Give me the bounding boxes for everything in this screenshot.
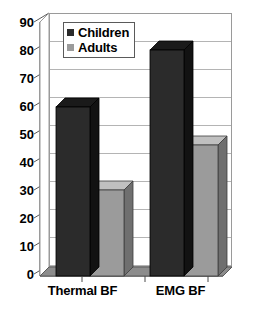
bar-thermal-children[interactable]	[56, 98, 99, 276]
square-marker-icon	[67, 44, 74, 51]
legend-label: Children	[78, 26, 129, 39]
x-category-label-emg: EMG BF	[128, 283, 233, 298]
legend-label: Adults	[78, 41, 117, 54]
square-marker-icon	[67, 29, 74, 36]
legend: Children Adults	[63, 22, 135, 58]
bar-emg-children[interactable]	[150, 41, 193, 276]
x-category-label-thermal: Thermal BF	[30, 283, 135, 298]
legend-item-children[interactable]: Children	[67, 25, 129, 40]
legend-item-adults[interactable]: Adults	[67, 40, 129, 55]
bar-chart: 90 80 70 60 50 40 30 20 10 0	[0, 0, 259, 313]
